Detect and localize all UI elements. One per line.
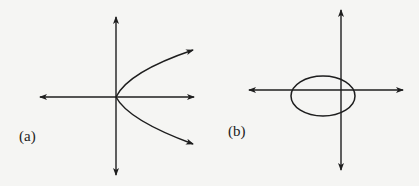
diagram-svg	[0, 0, 419, 186]
parabola-upper-branch	[116, 50, 193, 97]
diagram-canvas: (a) (b)	[0, 0, 419, 186]
panel-a	[40, 17, 194, 175]
parabola-lower-branch	[116, 97, 193, 144]
panel-a-label: (a)	[19, 128, 36, 145]
panel-b-label: (b)	[228, 123, 246, 140]
ellipse-curve	[291, 76, 355, 116]
panel-b	[249, 10, 403, 170]
